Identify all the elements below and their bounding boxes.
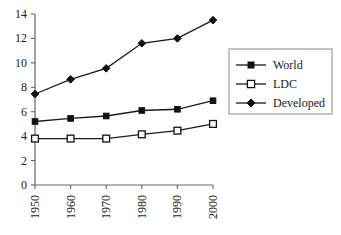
- x-axis-tick-label: 2000: [206, 195, 220, 219]
- x-axis-tick-label: 1960: [64, 195, 78, 219]
- x-axis-tick-label: 1970: [99, 195, 113, 219]
- y-axis-tick-label: 2: [21, 154, 27, 168]
- data-point-marker: [174, 127, 181, 134]
- data-point-marker: [68, 116, 74, 122]
- data-point-marker: [247, 80, 254, 87]
- y-axis-tick-label: 10: [15, 56, 27, 70]
- data-point-marker: [103, 135, 110, 142]
- legend-label: World: [273, 58, 303, 72]
- y-axis-tick-label: 6: [21, 105, 27, 119]
- legend-label: Developed: [273, 96, 325, 110]
- data-point-marker: [103, 113, 109, 119]
- y-axis-tick-label: 12: [15, 31, 27, 45]
- chart-canvas: 02468101214 195019601970198019902000 Wor…: [0, 0, 341, 235]
- data-point-marker: [32, 135, 39, 142]
- legend-label: LDC: [273, 77, 297, 91]
- y-axis-tick-label: 0: [21, 178, 27, 192]
- line-chart: 02468101214 195019601970198019902000 Wor…: [0, 0, 341, 235]
- data-point-marker: [210, 98, 216, 104]
- data-point-marker: [210, 121, 217, 128]
- y-axis-tick-label: 4: [21, 129, 27, 143]
- data-point-marker: [32, 119, 38, 125]
- data-point-marker: [67, 135, 74, 142]
- data-point-marker: [139, 108, 145, 114]
- data-point-marker: [138, 131, 145, 138]
- data-point-marker: [175, 106, 181, 112]
- y-axis-tick-label: 8: [21, 80, 27, 94]
- chart-legend: WorldLDCDeveloped: [229, 49, 332, 114]
- x-axis-tick-label: 1990: [170, 195, 184, 219]
- x-axis-tick-label: 1980: [135, 195, 149, 219]
- x-axis-tick-label: 1950: [28, 195, 42, 219]
- y-axis-tick-label: 14: [15, 7, 27, 21]
- data-point-marker: [248, 62, 254, 68]
